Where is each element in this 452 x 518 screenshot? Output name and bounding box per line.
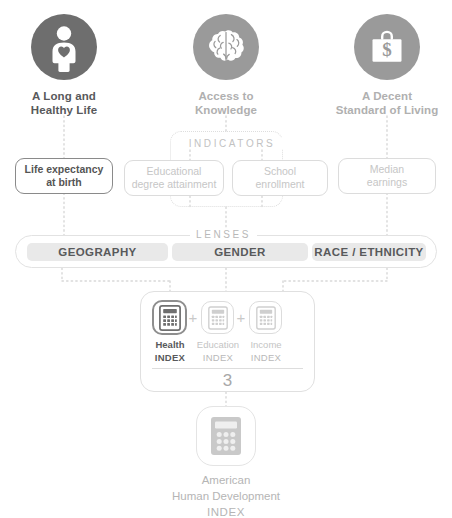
- svg-text:$: $: [382, 39, 392, 60]
- indicator-text-line2: at birth: [46, 176, 82, 188]
- calculator-icon: [208, 306, 228, 330]
- indicator-text-line1: Median: [370, 163, 404, 175]
- final-label-line2: Human Development: [0, 488, 452, 504]
- pillar-health-label: A Long and Healthy Life: [4, 89, 124, 117]
- plus-operator-1: +: [186, 309, 200, 326]
- pillar-education: Access to Knowledge: [166, 14, 286, 117]
- briefcase-dollar-icon: $: [354, 14, 420, 80]
- plus-operator-2: +: [234, 309, 248, 326]
- indicator-educational-degree-attainment[interactable]: Educational degree attainment: [124, 160, 224, 196]
- indicator-median-earnings[interactable]: Median earnings: [338, 158, 436, 194]
- calculator-icon: [159, 305, 181, 331]
- income-index-caption: Income INDEX: [237, 339, 295, 364]
- diagram-canvas: A Long and Healthy Life: [0, 0, 452, 518]
- health-circle: [31, 14, 97, 80]
- pillar-health-label-line2: Healthy Life: [31, 104, 97, 116]
- lenses-caption: LENSES: [190, 229, 257, 240]
- final-index-label: American Human Development INDEX: [0, 472, 452, 518]
- lens-race-ethnicity[interactable]: RACE / ETHNICITY: [312, 243, 426, 261]
- health-index-tile[interactable]: [152, 300, 187, 335]
- income-index-word: INDEX: [237, 352, 295, 365]
- indicator-text-line2: enrollment: [255, 178, 304, 190]
- indicator-text-line1: Educational: [147, 165, 202, 177]
- pillar-education-label: Access to Knowledge: [166, 89, 286, 117]
- indicator-text-line1: School: [264, 165, 296, 177]
- income-index-tile[interactable]: [249, 301, 282, 334]
- lens-gender[interactable]: GENDER: [172, 243, 308, 261]
- pillar-income-label: A Decent Standard of Living: [327, 89, 447, 117]
- final-index-tile[interactable]: [196, 406, 256, 466]
- indicator-text-line2: degree attainment: [132, 178, 217, 190]
- fraction-divider: [152, 368, 303, 369]
- indicator-text-line1: Life expectancy: [25, 163, 104, 175]
- indicators-caption: INDICATORS: [178, 138, 286, 149]
- pillar-income-label-line2: Standard of Living: [336, 104, 439, 116]
- final-label-line3: INDEX: [0, 504, 452, 518]
- indicator-school-enrollment-text: School enrollment: [255, 165, 304, 192]
- income-circle: $: [354, 14, 420, 80]
- final-label-line1: American: [0, 472, 452, 488]
- pillar-education-label-line1: Access to: [198, 90, 253, 102]
- lens-geography[interactable]: GEOGRAPHY: [27, 243, 168, 261]
- brain-icon: [193, 14, 259, 80]
- calculator-icon: [211, 417, 241, 455]
- pillar-income: $ A Decent Standard of Living: [327, 14, 447, 117]
- income-index-name: Income: [237, 339, 295, 352]
- person-with-heart-icon: [31, 14, 97, 80]
- indicator-educational-degree-attainment-text: Educational degree attainment: [132, 165, 217, 192]
- lens-gender-label: GENDER: [214, 246, 266, 258]
- calculator-icon: [256, 306, 276, 330]
- indicator-text-line2: earnings: [367, 176, 407, 188]
- lens-race-ethnicity-label: RACE / ETHNICITY: [314, 246, 423, 258]
- indicator-school-enrollment[interactable]: School enrollment: [232, 160, 328, 196]
- indicator-life-expectancy[interactable]: Life expectancy at birth: [15, 158, 113, 194]
- education-index-tile[interactable]: [201, 301, 234, 334]
- indicator-life-expectancy-text: Life expectancy at birth: [25, 163, 104, 190]
- denominator-value: 3: [152, 371, 303, 391]
- pillar-education-label-line2: Knowledge: [195, 104, 257, 116]
- education-circle: [193, 14, 259, 80]
- lens-geography-label: GEOGRAPHY: [58, 246, 136, 258]
- pillar-health: A Long and Healthy Life: [4, 14, 124, 117]
- pillar-income-label-line1: A Decent: [362, 90, 412, 102]
- pillar-health-label-line1: A Long and: [32, 90, 96, 102]
- indicator-median-earnings-text: Median earnings: [367, 163, 407, 190]
